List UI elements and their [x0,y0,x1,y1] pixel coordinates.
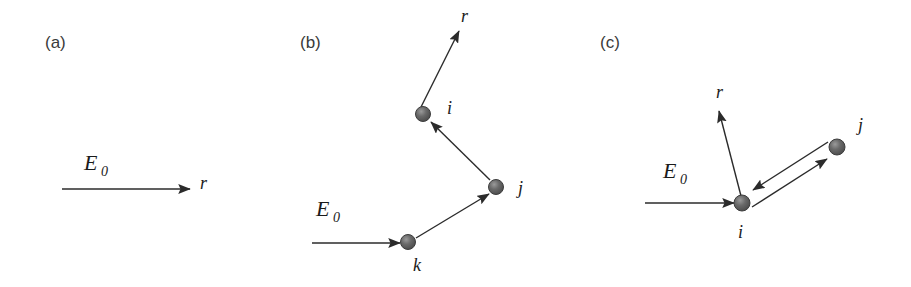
panel-b-particle-k [401,235,416,250]
panel-label-b: (b) [300,33,321,52]
panel-c-particle-label-j: j [856,115,863,135]
panel-b-direction-label-r: r [461,6,469,26]
panel-b-arrow-j-to-i [431,122,490,180]
incident-field-subscript: 0 [333,210,340,225]
panel-c-particle-label-i: i [738,222,743,242]
panel-c: (c) E 0 i j r [600,33,863,242]
incident-field-symbol: E [315,196,330,221]
diagram-canvas: (a) E 0 r (b) E 0 [0,0,911,287]
scattering-diagram-figure: (a) E 0 r (b) E 0 [0,0,911,287]
panel-b-arrow-i-to-r [421,31,459,107]
panel-a-direction-label-r: r [200,173,208,193]
panel-b-incident-field-label: E 0 [315,196,340,225]
panel-b-particle-label-j: j [516,178,523,198]
panel-b-particle-i [416,107,431,122]
panel-b-particle-label-i: i [447,98,452,118]
panel-b-particle-j [489,180,504,195]
panel-c-arrow-i-to-r [719,111,741,196]
panel-label-c: (c) [600,33,620,52]
panel-label-a: (a) [45,33,66,52]
incident-field-symbol: E [83,150,98,175]
panel-b-particle-label-k: k [413,255,422,275]
incident-field-subscript: 0 [680,172,687,187]
panel-a: (a) E 0 r [45,33,208,193]
panel-b: (b) E 0 k j i r [300,6,523,275]
panel-a-incident-field-label: E 0 [83,150,108,179]
panel-c-particle-i [734,195,750,211]
panel-c-direction-label-r: r [716,82,724,102]
incident-field-symbol: E [662,158,677,183]
incident-field-subscript: 0 [101,164,108,179]
panel-b-arrow-k-to-j [416,194,489,238]
panel-c-particle-j [829,139,845,155]
panel-c-incident-field-label: E 0 [662,158,687,187]
